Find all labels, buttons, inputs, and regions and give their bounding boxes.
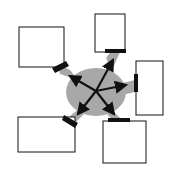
box-bottom-right: [103, 121, 146, 163]
box-top-right: [95, 14, 125, 52]
hub-spoke-diagram: [0, 0, 173, 175]
box-top-left: [19, 27, 64, 67]
box-right: [136, 61, 163, 115]
